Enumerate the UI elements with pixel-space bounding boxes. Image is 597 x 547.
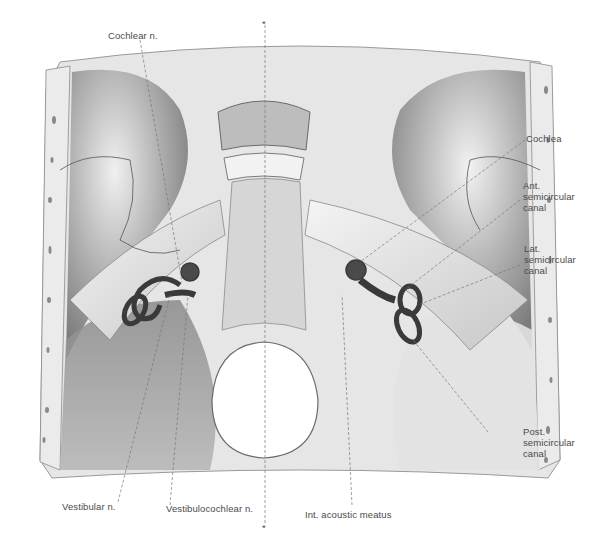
label-vestibulocochlear-nerve: Vestibulocochlear n. — [166, 503, 253, 514]
label-cochlear-nerve: Cochlear n. — [108, 30, 158, 41]
label-int-acoustic-meatus: Int. acoustic meatus — [305, 509, 391, 520]
sella-turcica — [218, 101, 310, 180]
label-cochlea: Cochlea — [526, 133, 562, 144]
anatomical-figure: Cochlear n. * Cochlea Ant. semicircular … — [0, 0, 597, 547]
skull-base-illustration — [0, 0, 597, 547]
label-ant-semicircular-canal: Ant. semicircular canal — [523, 180, 575, 213]
midline-marker-bottom: * — [262, 522, 266, 533]
label-vestibular-nerve: Vestibular n. — [62, 501, 116, 512]
label-post-semicircular-canal: Post. semicircular canal — [523, 426, 575, 459]
midline-marker-top: * — [262, 18, 266, 29]
clivus — [222, 179, 306, 331]
label-lat-semicircular-canal: Lat. semicircular canal — [524, 243, 576, 276]
